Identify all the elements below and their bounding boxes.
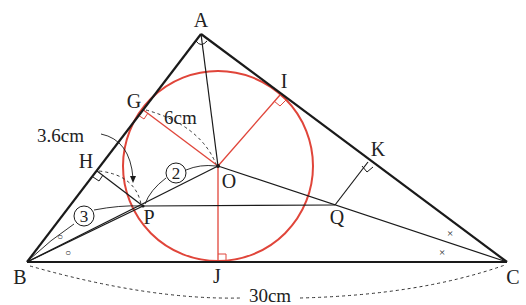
- label-G: G: [127, 90, 141, 112]
- label-B: B: [13, 266, 26, 288]
- leader-2-P: [145, 178, 166, 204]
- circled-3-text: 3: [80, 207, 89, 226]
- label-J: J: [213, 265, 221, 287]
- label-C: C: [506, 266, 519, 288]
- label-BC-30cm: 30cm: [249, 285, 291, 305]
- leader-3.6cm: [101, 134, 133, 178]
- radius-OI: [218, 95, 280, 166]
- segment-CO: [218, 166, 507, 262]
- angle-mark-B-lower: ○: [65, 247, 71, 258]
- point-O: [216, 164, 220, 168]
- segment-PQ: [143, 205, 335, 206]
- label-radius-6cm: 6cm: [164, 107, 197, 128]
- label-A: A: [194, 9, 209, 31]
- circled-2-text: 2: [172, 164, 181, 183]
- label-K: K: [371, 138, 386, 160]
- label-I: I: [281, 70, 288, 92]
- segment-AO: [201, 34, 218, 166]
- right-angle-I: [274, 100, 286, 106]
- segment-QK: [335, 162, 368, 205]
- label-BH-3.6cm: 3.6cm: [37, 125, 84, 146]
- angle-mark-C-lower: ×: [439, 246, 445, 258]
- point-P: [141, 204, 144, 207]
- side-AC: [201, 34, 507, 262]
- angle-mark-B-upper: ○: [57, 231, 63, 242]
- label-H: H: [79, 150, 93, 172]
- label-P: P: [143, 206, 154, 228]
- segment-PH: [97, 171, 143, 206]
- label-Q: Q: [330, 206, 345, 228]
- right-angle-H: [93, 175, 103, 181]
- geometry-diagram: 2 3 ○ ○ × × A B C G H I J K O P Q 6cm 3.…: [0, 0, 526, 305]
- side-AB: [27, 34, 201, 262]
- label-O: O: [222, 170, 236, 192]
- leader-arrowhead: [130, 176, 136, 183]
- angle-mark-C-upper: ×: [447, 227, 453, 239]
